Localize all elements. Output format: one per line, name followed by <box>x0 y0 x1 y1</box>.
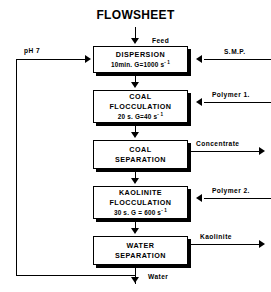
connector-coalflocculation-to-coalseparation-arrowhead <box>131 132 139 138</box>
unit-kaolinite-flocculation-title-line1: KAOLINITE <box>119 188 162 198</box>
unit-dispersion-param-text: 10min. G=1000 s <box>111 61 164 68</box>
unit-kaolinite-flocculation-title-line2: FLOCCULATION <box>109 198 171 208</box>
unit-coal-flocculation-param-text: 20 s. G=40 s <box>118 113 158 120</box>
unit-dispersion-title: DISPERSION <box>116 50 165 60</box>
unit-water-separation: WATER SEPARATION <box>93 236 188 265</box>
kaolinite-outlet-line <box>188 244 260 245</box>
unit-coal-flocculation-param: 20 s. G=40 s- 1 <box>118 112 164 122</box>
unit-coal-separation-title-line1: COAL <box>129 145 151 155</box>
flowsheet-diagram: FLOWSHEET Feed DISPERSION 10min. G=1000 … <box>0 0 271 292</box>
diagram-title: FLOWSHEET <box>0 8 271 22</box>
unit-water-separation-title-line1: WATER <box>127 241 155 251</box>
unit-kaolinite-flocculation-param: 30 s. G = 600 s- 1 <box>114 208 167 218</box>
stream-label-polymer2: Polymer 2. <box>212 187 250 194</box>
unit-dispersion: DISPERSION 10min. G=1000 s- 1 <box>93 46 188 73</box>
polymer2-inlet-arrowhead <box>196 194 202 202</box>
connector-coalseparation-to-kaoliniteflocculation-arrowhead <box>131 178 139 184</box>
unit-coal-flocculation: COAL FLOCCULATION 20 s. G=40 s- 1 <box>93 90 188 123</box>
recycle-bottom-line <box>16 275 136 276</box>
stream-label-feed: Feed <box>152 37 169 44</box>
feed-inlet-arrowhead <box>131 38 139 44</box>
polymer1-inlet-line <box>204 102 271 103</box>
stream-label-kaolinite: Kaolinite <box>200 233 232 240</box>
ph-inlet-arrowhead <box>85 55 91 63</box>
unit-kaolinite-flocculation: KAOLINITE FLOCCULATION 30 s. G = 600 s- … <box>93 186 188 219</box>
unit-dispersion-param-exponent: - 1 <box>164 59 170 64</box>
unit-water-separation-title-line2: SEPARATION <box>115 251 166 261</box>
unit-coal-flocculation-param-exponent: - 1 <box>157 111 163 116</box>
unit-kaolinite-flocculation-param-text: 30 s. G = 600 s <box>114 209 161 216</box>
stream-label-smp: S.M.P. <box>224 48 246 55</box>
unit-kaolinite-flocculation-param-exponent: - 1 <box>161 207 167 212</box>
unit-dispersion-param: 10min. G=1000 s- 1 <box>111 60 170 70</box>
polymer1-inlet-arrowhead <box>196 98 202 106</box>
unit-coal-separation: COAL SEPARATION <box>93 140 188 169</box>
smp-inlet-line <box>204 59 271 60</box>
water-outlet-arrowhead <box>131 277 139 283</box>
polymer2-inlet-line <box>204 198 271 199</box>
unit-coal-separation-title-line2: SEPARATION <box>115 155 166 165</box>
unit-coal-flocculation-title-line1: COAL <box>129 92 151 102</box>
stream-label-polymer1: Polymer 1. <box>212 91 250 98</box>
connector-dispersion-to-coalflocculation-arrowhead <box>131 82 139 88</box>
stream-label-concentrate: Concentrate <box>196 140 239 147</box>
stream-label-water: Water <box>148 273 168 280</box>
stream-label-ph: pH 7 <box>24 47 40 54</box>
connector-kaoliniteflocculation-to-waterseparation-arrowhead <box>131 228 139 234</box>
recycle-left-riser-line <box>16 59 17 276</box>
kaolinite-outlet-arrowhead <box>259 240 265 248</box>
ph-inlet-line <box>16 59 85 60</box>
unit-coal-flocculation-title-line2: FLOCCULATION <box>109 102 171 112</box>
concentrate-outlet-arrowhead <box>259 147 265 155</box>
smp-inlet-arrowhead <box>196 55 202 63</box>
concentrate-outlet-line <box>188 151 260 152</box>
